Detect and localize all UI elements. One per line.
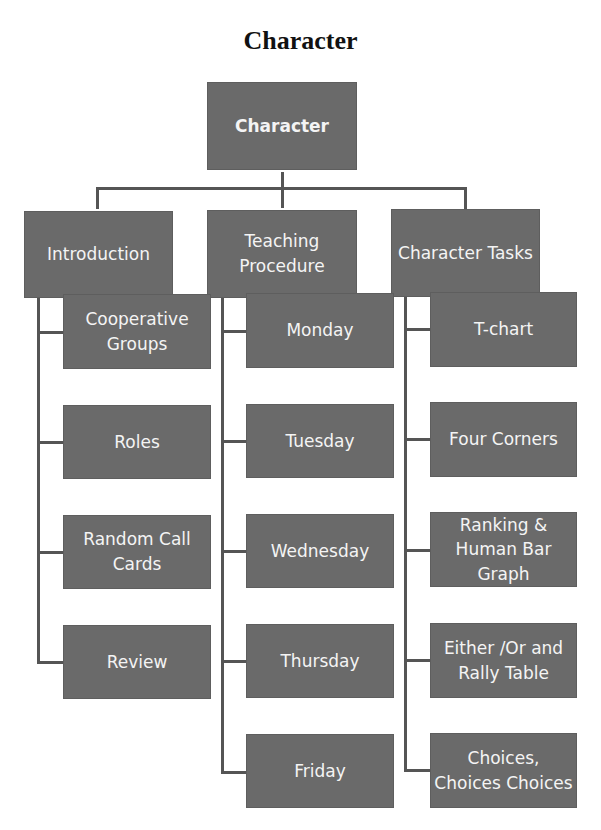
day-item: Thursday xyxy=(246,624,394,698)
task-item: Either /Or and Rally Table xyxy=(430,623,577,698)
connector xyxy=(221,330,247,333)
column-character-tasks: Character Tasks xyxy=(391,209,540,297)
intro-item: Review xyxy=(63,625,211,699)
day-item: Tuesday xyxy=(246,404,394,478)
connector xyxy=(404,549,430,552)
connector xyxy=(37,661,63,664)
connector xyxy=(404,659,430,662)
connector xyxy=(37,441,63,444)
day-item: Monday xyxy=(246,293,394,368)
task-item: Four Corners xyxy=(430,402,577,477)
intro-item: Random Call Cards xyxy=(63,515,211,589)
task-item: Choices, Choices Choices xyxy=(430,733,577,808)
connector xyxy=(37,551,63,554)
connector xyxy=(404,328,430,331)
connector xyxy=(96,187,99,209)
connector xyxy=(96,187,466,190)
root-node: Character xyxy=(207,82,357,170)
connector xyxy=(221,550,247,553)
page-title: Character xyxy=(0,26,601,56)
column-introduction: Introduction xyxy=(24,211,173,298)
connector xyxy=(464,187,467,209)
task-item: T-chart xyxy=(430,292,577,367)
connector xyxy=(404,297,407,771)
connector xyxy=(221,298,224,773)
day-item: Friday xyxy=(246,734,394,808)
connector xyxy=(404,438,430,441)
connector xyxy=(221,660,247,663)
connector xyxy=(37,331,63,334)
connector xyxy=(221,440,247,443)
intro-item: Roles xyxy=(63,405,211,479)
intro-item: Cooperative Groups xyxy=(63,294,211,369)
column-teaching-procedure: Teaching Procedure xyxy=(207,210,357,298)
connector xyxy=(37,298,40,663)
connector xyxy=(221,771,247,774)
connector xyxy=(404,769,430,772)
day-item: Wednesday xyxy=(246,514,394,588)
task-item: Ranking & Human Bar Graph xyxy=(430,512,577,587)
connector xyxy=(281,172,284,208)
